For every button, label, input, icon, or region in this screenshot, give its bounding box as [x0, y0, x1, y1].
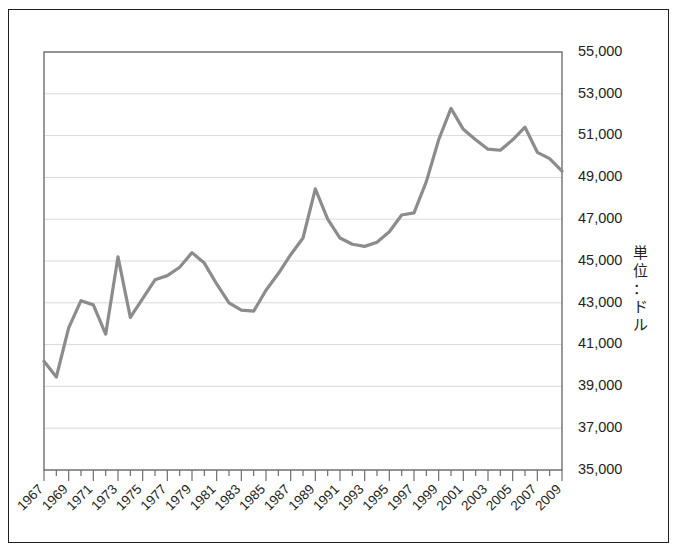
x-axis-tick-label: 2001 — [434, 482, 466, 514]
x-axis-tick-label: 2003 — [458, 482, 490, 514]
plot-gridlines — [44, 52, 562, 470]
y-axis-tick-label: 35,000 — [578, 461, 622, 477]
x-axis-tick-label: 1979 — [162, 482, 194, 514]
y-axis-tick-labels: 55,00053,00051,00049,00047,00045,00043,0… — [578, 43, 622, 477]
line-chart: 55,00053,00051,00049,00047,00045,00043,0… — [0, 0, 679, 554]
x-axis-tick-label: 2009 — [532, 482, 564, 514]
x-axis-tick-label: 1995 — [360, 482, 392, 514]
x-axis-tick-label: 1993 — [335, 482, 367, 514]
x-axis-tick-labels: 1967196919711973197519771979198119831985… — [14, 482, 564, 514]
y-axis-tick-label: 37,000 — [578, 419, 622, 435]
y-axis-tick-label: 47,000 — [578, 210, 622, 226]
x-axis-tick-label: 1981 — [187, 482, 219, 514]
y-axis-title-char: ： — [633, 280, 648, 297]
y-axis-tick-label: 53,000 — [578, 85, 622, 101]
x-axis-tick-label: 1975 — [113, 482, 145, 514]
chart-figure: 55,00053,00051,00049,00047,00045,00043,0… — [0, 0, 679, 554]
x-axis-tick-label: 1991 — [310, 482, 342, 514]
x-axis-tick-label: 1983 — [212, 482, 244, 514]
x-axis-tick-label: 1985 — [236, 482, 268, 514]
y-axis-title-char: ル — [633, 316, 648, 333]
x-axis-tick-label: 1997 — [384, 482, 416, 514]
y-axis-tick-label: 41,000 — [578, 335, 622, 351]
x-axis-tick-label: 1967 — [14, 482, 46, 514]
y-axis-tick-label: 43,000 — [578, 294, 622, 310]
y-axis-title: 単位：ドル — [633, 244, 648, 333]
x-axis-tick-label: 1971 — [64, 482, 96, 514]
y-axis-tick-label: 55,000 — [578, 43, 622, 59]
x-axis-ticks — [44, 470, 562, 481]
x-axis-tick-label: 2007 — [508, 482, 540, 514]
y-axis-title-char: 位 — [633, 262, 648, 279]
x-axis-tick-label: 2005 — [483, 482, 515, 514]
x-axis-tick-label: 1989 — [286, 482, 318, 514]
x-axis-tick-label: 1999 — [409, 482, 441, 514]
y-axis-tick-label: 51,000 — [578, 126, 622, 142]
y-axis-title-char: ド — [633, 298, 648, 315]
x-axis-tick-label: 1977 — [138, 482, 170, 514]
y-axis-tick-label: 45,000 — [578, 252, 622, 268]
x-axis-tick-label: 1973 — [88, 482, 120, 514]
y-axis-tick-label: 49,000 — [578, 168, 622, 184]
x-axis-tick-label: 1969 — [39, 482, 71, 514]
y-axis-title-char: 単 — [633, 244, 648, 261]
y-axis-tick-label: 39,000 — [578, 377, 622, 393]
data-series-line — [44, 108, 562, 377]
x-axis-tick-label: 1987 — [261, 482, 293, 514]
